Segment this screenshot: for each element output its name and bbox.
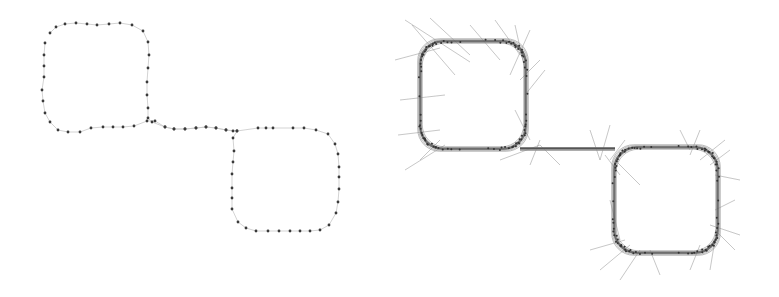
- trace-point: [420, 70, 422, 72]
- trace-point: [420, 66, 422, 68]
- trace-point: [515, 145, 517, 147]
- trace-point: [614, 163, 616, 165]
- loop-1-trace: [418, 39, 529, 152]
- ray-line: [600, 125, 610, 160]
- sample-point: [49, 32, 52, 35]
- trace-point: [502, 39, 504, 41]
- loop-1-trace: [421, 42, 524, 147]
- sample-point: [232, 137, 235, 140]
- loop-2-trace: [613, 146, 720, 255]
- trace-point: [717, 200, 719, 202]
- sample-point: [195, 127, 198, 130]
- trace-point: [617, 238, 619, 240]
- trace-point: [616, 235, 618, 237]
- trace-point: [435, 146, 437, 148]
- trace-point: [524, 134, 526, 136]
- sample-point: [146, 120, 149, 123]
- trace-point: [701, 148, 703, 150]
- trace-point: [459, 148, 461, 150]
- trace-point: [687, 252, 689, 254]
- trace-point: [424, 51, 426, 53]
- trace-point: [447, 148, 449, 150]
- trace-point: [711, 155, 713, 157]
- sample-point: [42, 100, 45, 103]
- sample-point: [133, 125, 136, 128]
- sample-point: [265, 127, 268, 130]
- trace-point: [512, 42, 514, 44]
- ray-line: [690, 245, 700, 270]
- trace-point: [524, 132, 526, 134]
- trace-point: [639, 148, 641, 150]
- sample-point: [147, 41, 150, 44]
- trace-point: [501, 146, 503, 148]
- trace-point: [693, 252, 695, 254]
- trace-point: [418, 95, 420, 97]
- trace-point: [651, 253, 653, 255]
- trace-point: [443, 40, 445, 42]
- trace-point: [612, 231, 614, 233]
- trace-point: [494, 39, 496, 41]
- sample-point: [147, 117, 150, 120]
- trace-point: [617, 158, 619, 160]
- trace-point: [716, 217, 718, 219]
- sample-point: [338, 166, 341, 169]
- trace-point: [521, 49, 523, 51]
- trace-point: [713, 157, 715, 159]
- trace-point: [718, 167, 720, 169]
- trace-point: [510, 43, 512, 45]
- sample-point: [41, 89, 44, 92]
- trace-point: [518, 142, 520, 144]
- trace-point: [714, 241, 716, 243]
- trace-point: [435, 43, 437, 45]
- trace-point: [522, 51, 524, 53]
- sample-point: [231, 187, 234, 190]
- trace-point: [691, 252, 693, 254]
- trace-point: [517, 48, 519, 50]
- trace-point: [716, 161, 718, 163]
- dotted-path-figure: [0, 0, 380, 297]
- trace-point: [431, 45, 433, 47]
- sample-point: [79, 131, 82, 134]
- trace-point: [619, 152, 621, 154]
- sample-point: [119, 22, 122, 25]
- trace-point: [612, 200, 614, 202]
- sample-point: [289, 230, 292, 233]
- sample-point: [55, 26, 58, 29]
- trace-point: [425, 46, 427, 48]
- trace-point: [504, 146, 506, 148]
- ray-line: [530, 140, 540, 165]
- sample-point: [164, 126, 167, 129]
- sample-point: [43, 65, 46, 68]
- trace-point: [426, 143, 428, 145]
- trace-point: [487, 147, 489, 149]
- sample-point: [173, 128, 176, 131]
- sample-point: [232, 161, 235, 164]
- trace-point: [615, 241, 617, 243]
- sample-point: [67, 131, 70, 134]
- trace-point: [624, 246, 626, 248]
- trace-point: [420, 59, 422, 61]
- trace-point: [524, 66, 526, 68]
- trace-point: [650, 146, 652, 148]
- trace-point: [523, 61, 525, 63]
- trace-point: [450, 148, 452, 150]
- trace-point: [515, 142, 517, 144]
- trace-point: [525, 120, 527, 122]
- sample-point: [272, 127, 275, 130]
- trace-point: [420, 63, 422, 65]
- trace-point: [625, 250, 627, 252]
- trace-point: [619, 245, 621, 247]
- trace-point: [511, 146, 513, 148]
- trace-point: [705, 249, 707, 251]
- trace-point: [711, 244, 713, 246]
- trace-point: [643, 146, 645, 148]
- trace-point: [451, 42, 453, 44]
- trace-point: [421, 132, 423, 134]
- sample-point: [334, 143, 337, 146]
- traced-path-figure: [380, 0, 779, 297]
- sample-point: [309, 230, 312, 233]
- sample-point: [335, 212, 338, 215]
- trace-point: [524, 125, 526, 127]
- sample-point: [146, 81, 149, 84]
- trace-point: [614, 176, 616, 178]
